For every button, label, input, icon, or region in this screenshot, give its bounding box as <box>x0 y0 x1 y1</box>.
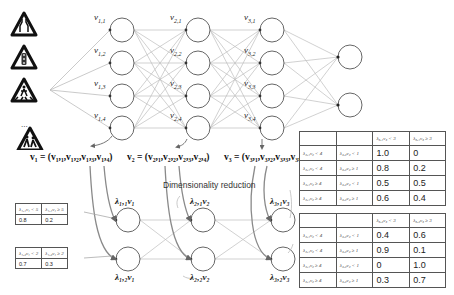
input-dot <box>109 127 112 130</box>
output-node <box>338 45 362 69</box>
reduced-node <box>116 247 140 271</box>
layer1-to-vector-arrow <box>92 136 112 146</box>
probability-cell: 1.0 <box>373 146 410 161</box>
table-link <box>84 212 112 218</box>
traffic-light-lamp <box>23 58 25 60</box>
equation-v1: v₁ = (v₁,₁,v₁,₂,v₁,₃,v₁,₄) <box>30 152 113 162</box>
reduced-node-label-bottom: λ₂,₂v₂ <box>190 273 210 282</box>
table-header: λ₃,₁v₃ ≥ 3 <box>410 132 446 146</box>
right-table-1: λ₃,₁v₃ < 3λ₃,₁v₃ ≥ 3λ₂,₁v₂ < 4λ₂,₂v₂ < 1… <box>299 131 446 206</box>
table-cell: 0.8 <box>16 215 42 225</box>
node-label: v1,4 <box>94 111 106 122</box>
input-dot <box>185 127 188 130</box>
probability-cell: 0.8 <box>373 161 410 176</box>
input-dot <box>109 95 112 98</box>
reduced-node <box>271 247 295 271</box>
probability-cell: 0.6 <box>373 191 410 206</box>
dimensionality-reduction-label: Dimensionality reduction <box>163 180 256 190</box>
node-label: v2,3 <box>170 79 182 90</box>
child-head <box>32 137 35 140</box>
table-row: λ₂,₁v₂ < 4λ₂,₂v₂ < 11.00 <box>300 146 446 161</box>
traffic-light-lamp <box>23 62 25 64</box>
condition-cell: λ₂,₂v₂ < 1 <box>336 146 373 161</box>
output-input-dot <box>336 55 339 58</box>
table-header: λ₃,₂v₃ ≥ 3 <box>410 214 446 228</box>
table-header <box>300 132 337 146</box>
condition-cell: λ₂,₁v₂ < 4 <box>300 243 337 258</box>
probability-cell: 0 <box>410 146 446 161</box>
table-header <box>336 214 373 228</box>
condition-cell: λ₂,₂v₂ < 1 <box>336 258 373 273</box>
probability-cell: 0.7 <box>410 273 446 288</box>
table-link <box>177 196 180 208</box>
right-table-2: λ₃,₂v₃ < 3λ₃,₂v₃ ≥ 3λ₂,₁v₂ < 4λ₂,₂v₂ < 1… <box>299 213 446 288</box>
table-row: λ₂,₁v₂ ≥ 4λ₂,₂v₂ < 101.0 <box>300 258 446 273</box>
node-label: v2,4 <box>170 111 182 122</box>
probability-cell: 0.5 <box>373 176 410 191</box>
neuron-node <box>186 18 210 42</box>
condition-cell: λ₂,₂v₂ ≥ 1 <box>336 243 373 258</box>
output-edge <box>284 57 338 96</box>
left-table-1: λ₁,₁v₁ < 5λ₁,₁v₁ ≥ 5 0.80.2 <box>15 203 68 225</box>
table-cell: 0.7 <box>16 259 42 269</box>
table-row: λ₂,₁v₂ ≥ 4λ₂,₂v₂ < 10.50.5 <box>300 176 446 191</box>
neuron-node <box>186 51 210 75</box>
table-header: λ₃,₁v₃ < 3 <box>373 132 410 146</box>
input-dot <box>109 29 112 32</box>
left-table-2: λ₁,₂v₁ < 2λ₁,₂v₁ ≥ 2 0.70.3 <box>15 247 68 269</box>
output-edge <box>284 105 338 128</box>
table-header: λ₃,₂v₃ < 3 <box>373 214 410 228</box>
table-header: λ₁,₁v₁ < 5 <box>16 204 42 215</box>
neuron-node <box>186 84 210 108</box>
input-dot <box>259 127 262 130</box>
equation-v3: v₃ = (v₃,₁,v₃,₂,v₃,₃,v₃,₄) <box>224 152 307 162</box>
neuron-node <box>260 84 284 108</box>
reduced-node-label-bottom: λ₁,₂v₁ <box>115 273 135 282</box>
pedestrian-head <box>23 86 26 89</box>
node-label: v3,4 <box>244 111 256 122</box>
table-row: λ₂,₁v₂ ≥ 4λ₂,₂v₂ ≥ 10.60.4 <box>300 191 446 206</box>
reduced-node-label-bottom: λ₃,₂v₃ <box>270 273 290 282</box>
reduced-node-label-top: λ₃,₁v₃ <box>270 197 290 206</box>
node-label: v1,3 <box>94 79 106 90</box>
table-header <box>300 214 337 228</box>
table-row: λ₂,₁v₂ ≥ 4λ₂,₂v₂ ≥ 10.30.7 <box>300 273 446 288</box>
reduction-arrow <box>104 166 115 220</box>
probability-cell: 0.1 <box>410 243 446 258</box>
condition-cell: λ₂,₁v₂ < 4 <box>300 146 337 161</box>
condition-cell: λ₂,₁v₂ ≥ 4 <box>300 258 337 273</box>
reduction-arrow <box>90 166 115 259</box>
input-edge <box>50 90 110 128</box>
input-dot <box>259 95 262 98</box>
node-label: v1,1 <box>94 13 106 24</box>
probability-cell: 0.2 <box>410 161 446 176</box>
probability-cell: 0.4 <box>373 228 410 243</box>
probability-cell: 0.3 <box>373 273 410 288</box>
reduced-input-dot <box>270 258 273 261</box>
probability-cell: 0.9 <box>373 243 410 258</box>
neuron-node <box>110 116 134 140</box>
condition-cell: λ₂,₁v₂ ≥ 4 <box>300 191 337 206</box>
output-edge <box>284 63 338 105</box>
road-narrows-sign-icon <box>12 13 36 35</box>
probability-cell: 0.5 <box>410 176 446 191</box>
input-dot <box>185 62 188 65</box>
condition-cell: λ₂,₁v₂ ≥ 4 <box>300 273 337 288</box>
table-header <box>336 132 373 146</box>
node-label: v3,3 <box>244 79 256 90</box>
probability-cell: 0 <box>373 258 410 273</box>
output-input-dot <box>336 103 339 106</box>
neuron-node <box>186 116 210 140</box>
input-dot <box>109 62 112 65</box>
input-dot <box>259 62 262 65</box>
input-dot <box>259 29 262 32</box>
table-cell: 0.3 <box>42 259 68 269</box>
input-dot <box>185 95 188 98</box>
condition-cell: λ₂,₂v₂ < 1 <box>336 176 373 191</box>
neuron-node <box>110 51 134 75</box>
table-header: λ₁,₂v₁ < 2 <box>16 248 42 259</box>
reduction-arrow <box>264 166 270 220</box>
node-label: v2,1 <box>170 13 182 24</box>
neuron-node <box>110 84 134 108</box>
input-edge <box>50 90 110 96</box>
